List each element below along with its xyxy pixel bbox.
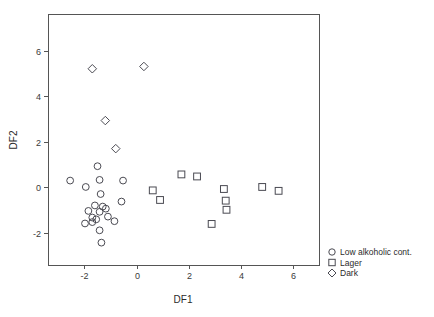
data-point-marker bbox=[208, 221, 215, 228]
series-lager bbox=[149, 171, 282, 227]
data-point-marker bbox=[120, 177, 127, 184]
data-point-marker bbox=[222, 197, 229, 204]
data-point-marker bbox=[149, 187, 156, 194]
x-axis-title: DF1 bbox=[174, 294, 193, 305]
data-point-marker bbox=[259, 184, 266, 191]
data-point-marker bbox=[97, 191, 104, 198]
data-point-marker bbox=[140, 62, 149, 71]
plot-border bbox=[49, 15, 320, 266]
legend-marker-circle bbox=[329, 249, 335, 255]
data-point-marker bbox=[96, 176, 103, 183]
x-tick-label: 2 bbox=[187, 271, 192, 281]
legend: Low alkoholic cont.LagerDark bbox=[328, 247, 412, 278]
y-tick-label: 0 bbox=[36, 183, 41, 193]
data-point-marker bbox=[96, 227, 103, 234]
y-tick-label: -2 bbox=[33, 229, 41, 239]
data-point-marker bbox=[275, 187, 282, 194]
y-tick-label: 6 bbox=[36, 47, 41, 57]
data-points bbox=[67, 62, 282, 246]
legend-marker-square bbox=[329, 259, 335, 265]
x-axis-ticks: -20246 bbox=[80, 265, 296, 281]
y-tick-label: 2 bbox=[36, 138, 41, 148]
data-point-marker bbox=[88, 65, 97, 74]
x-tick-label: 6 bbox=[291, 271, 296, 281]
data-point-marker bbox=[105, 213, 112, 220]
plot-frame bbox=[49, 15, 320, 266]
data-point-marker bbox=[82, 220, 89, 227]
data-point-marker bbox=[157, 197, 164, 204]
scatter-plot-figure: -20246 -20246 Low alkoholic cont.LagerDa… bbox=[0, 0, 434, 317]
series-low-alkoholic-cont bbox=[67, 163, 127, 246]
legend-label: Low alkoholic cont. bbox=[340, 247, 412, 257]
data-point-marker bbox=[101, 116, 110, 125]
data-point-marker bbox=[223, 206, 230, 213]
x-tick-label: 0 bbox=[135, 271, 140, 281]
data-point-marker bbox=[98, 239, 105, 246]
plot-canvas: -20246 -20246 Low alkoholic cont.LagerDa… bbox=[0, 0, 434, 317]
x-tick-label: -2 bbox=[80, 271, 88, 281]
legend-label: Dark bbox=[340, 268, 359, 278]
legend-label: Lager bbox=[340, 258, 362, 268]
data-point-marker bbox=[112, 144, 121, 153]
y-axis-ticks: -20246 bbox=[33, 47, 48, 239]
data-point-marker bbox=[94, 163, 101, 170]
series-dark bbox=[88, 62, 148, 153]
data-point-marker bbox=[194, 173, 201, 180]
data-point-marker bbox=[178, 171, 185, 178]
data-point-marker bbox=[118, 198, 125, 205]
data-point-marker bbox=[220, 186, 227, 193]
x-tick-label: 4 bbox=[239, 271, 244, 281]
data-point-marker bbox=[82, 184, 89, 191]
legend-marker-diamond bbox=[328, 269, 336, 277]
data-point-marker bbox=[67, 177, 74, 184]
y-tick-label: 4 bbox=[36, 92, 41, 102]
data-point-marker bbox=[92, 202, 99, 209]
data-point-marker bbox=[85, 208, 92, 215]
data-point-marker bbox=[111, 218, 118, 225]
y-axis-title: DF2 bbox=[8, 130, 19, 149]
